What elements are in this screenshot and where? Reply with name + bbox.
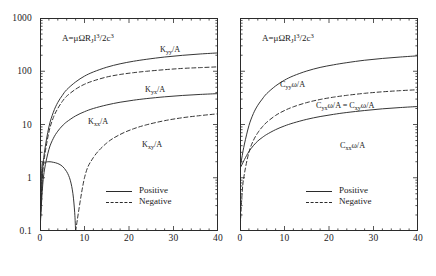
x-tick-label: 20 (124, 233, 134, 243)
right-plot-panel: A=μΩRJl3/2c3 Cyyω/A Cyxω/A = Cxyω/A Cxxω… (240, 18, 418, 231)
x-tick-label: 0 (38, 233, 43, 243)
y-tick-label: 100 (17, 66, 32, 76)
x-tick-label: 20 (324, 233, 334, 243)
x-tick-label: 40 (413, 233, 423, 243)
left-plot-curves (40, 18, 218, 231)
curve-label-cyx-cxy: Cyxω/A = Cxyω/A (316, 102, 374, 110)
legend-key-dashed-icon (306, 202, 332, 203)
legend-label-negative: Negative (339, 197, 371, 206)
legend-label-positive: Positive (339, 186, 368, 195)
left-panel-annotation: A=μΩRJl3/2c3 (62, 34, 114, 43)
y-axis-tick-labels: 1000 100 10 1 0.1 (0, 18, 36, 231)
legend-key-solid-icon (306, 191, 332, 192)
legend-key-dashed-icon (106, 202, 132, 203)
curve-label-kxy: Kxy/A (142, 141, 162, 149)
x-tick-label: 10 (280, 233, 290, 243)
right-panel-annotation: A=μΩRJl3/2c3 (262, 34, 314, 43)
right-plot-curves (240, 18, 418, 231)
x-tick-label: 40 (213, 233, 223, 243)
curve-label-cyy: Cyyω/A (280, 81, 305, 89)
y-tick-label: 1000 (12, 13, 32, 23)
x-tick-label: 30 (369, 233, 379, 243)
x-tick-label: 0 (238, 233, 243, 243)
x-tick-label: 30 (169, 233, 179, 243)
legend-key-solid-icon (106, 191, 132, 192)
left-x-axis-tick-labels: 0 10 20 30 40 (40, 233, 218, 247)
y-tick-label: 0.1 (20, 226, 32, 236)
left-plot-panel: A=μΩRJl3/2c3 Kyy/A Kyx/A Kxx/A Kxy/A Pos… (40, 18, 218, 231)
legend-label-positive: Positive (139, 186, 168, 195)
curve-label-kyx: Kyx/A (145, 86, 165, 94)
legend-label-negative: Negative (139, 197, 171, 206)
curve-label-cxx: Cxxω/A (340, 142, 365, 150)
curve-label-kyy: Kyy/A (160, 46, 180, 54)
right-x-axis-tick-labels: 0 10 20 30 40 (240, 233, 418, 247)
y-tick-label: 1 (27, 173, 32, 183)
x-tick-label: 10 (80, 233, 90, 243)
figure: 1000 100 10 1 0.1 A=μΩRJl3/2c3 Kyy/A Kyx… (0, 0, 436, 276)
y-tick-label: 10 (22, 120, 32, 130)
curve-label-kxx: Kxx/A (88, 118, 108, 126)
